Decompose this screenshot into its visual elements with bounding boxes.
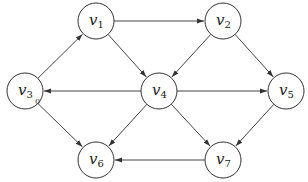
node-v1: v1	[78, 3, 114, 39]
edge-v5-v7	[236, 104, 274, 146]
arrow-icon	[172, 34, 211, 77]
directed-graph: v1v2v3v4v5v6v7 0	[0, 0, 308, 182]
node-v4: v4	[141, 73, 177, 109]
arrow-icon	[38, 104, 82, 147]
node-v2: v2	[205, 3, 241, 39]
edge-v2-v4	[172, 34, 211, 77]
arrow-icon	[109, 104, 147, 146]
annotations-layer: 0	[35, 97, 40, 106]
node-v7: v7	[205, 142, 241, 178]
edge-v4-v6	[109, 104, 147, 146]
annotation-label: 0	[35, 97, 40, 106]
edge-v3-v1	[38, 34, 83, 78]
arrow-icon	[108, 34, 146, 76]
edge-v2-v5	[235, 34, 273, 76]
arrow-icon	[236, 104, 274, 146]
arrow-icon	[235, 34, 273, 76]
arrow-icon	[38, 34, 83, 78]
arrow-icon	[171, 104, 210, 146]
edge-v3-v6	[38, 104, 82, 147]
edge-v1-v4	[108, 34, 146, 76]
edge-v4-v7	[171, 104, 210, 146]
node-v5: v5	[268, 73, 304, 109]
node-v6: v6	[78, 142, 114, 178]
